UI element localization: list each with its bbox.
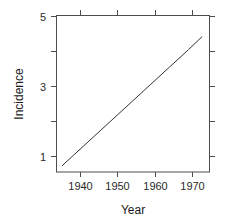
chart-figure: 5 3 1 1940 1950 1960 1970 Incidence Year: [0, 0, 225, 223]
y-tick-label-3: 3: [32, 81, 46, 92]
y-tick-label-1: 1: [32, 151, 46, 162]
y-axis-ticks-left: [51, 17, 56, 157]
x-tick-label-1970: 1970: [180, 181, 204, 192]
y-axis-title: Incidence: [12, 68, 26, 119]
x-axis-ticks-bottom: [81, 172, 193, 177]
x-tick-label-1940: 1940: [68, 181, 92, 192]
x-tick-label-1960: 1960: [143, 181, 167, 192]
plot-box-frame: [57, 16, 210, 173]
y-axis-ticks-right: [210, 17, 215, 157]
x-axis-ticks-top: [81, 10, 193, 15]
y-tick-label-5: 5: [32, 11, 46, 22]
x-axis-title: Year: [121, 203, 145, 217]
x-tick-label-1950: 1950: [105, 181, 129, 192]
incidence-trend-line: [62, 37, 202, 166]
